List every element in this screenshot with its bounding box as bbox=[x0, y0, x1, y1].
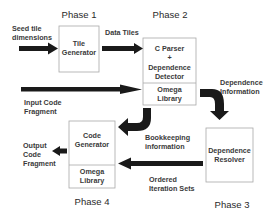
dependence-info-label-2: Information bbox=[220, 87, 260, 96]
bookkeeping-label-2: information bbox=[145, 142, 185, 151]
seed-label-1: Seed tile bbox=[12, 24, 42, 33]
seed-arrow-icon bbox=[19, 43, 58, 55]
input-code-label-1: Input Code bbox=[24, 98, 62, 107]
data-tiles-arrow-icon bbox=[102, 43, 143, 54]
omega-library-bottom-label-1: Omega bbox=[80, 167, 105, 176]
omega-library-bottom-label-2: Library bbox=[80, 176, 104, 185]
output-code-arrow-icon bbox=[52, 146, 67, 156]
output-code-label-1: Output bbox=[23, 141, 47, 150]
phase-2-title: Phase 2 bbox=[153, 9, 188, 20]
seed-label-2: dimensions bbox=[12, 33, 52, 42]
dependence-info-label-1: Dependence bbox=[220, 78, 263, 87]
code-generator-label-2: Generator bbox=[75, 140, 110, 149]
input-code-arrow-icon bbox=[21, 85, 142, 95]
resolver-label-1: Dependence bbox=[208, 146, 251, 155]
bookkeeping-label-1: Bookkeeping bbox=[145, 133, 190, 142]
tile-generator-box: Tile Generator bbox=[59, 26, 99, 72]
output-code-label-3: Fragment bbox=[23, 159, 56, 168]
resolver-label-2: Resolver bbox=[214, 155, 245, 164]
code-generator-label-1: Code bbox=[83, 131, 101, 140]
phase-3-title: Phase 3 bbox=[215, 199, 250, 210]
parser-label-2: + bbox=[167, 53, 171, 62]
omega-library-top-label-2: Library bbox=[157, 94, 181, 103]
tile-generator-label-2: Generator bbox=[62, 48, 97, 57]
omega-library-top-label-1: Omega bbox=[157, 85, 182, 94]
data-tiles-label: Data Tiles bbox=[105, 28, 139, 37]
parser-label-3: Dependence bbox=[148, 63, 191, 72]
pipeline-diagram: Phase 1 Phase 2 Phase 3 Phase 4 Tile Gen… bbox=[0, 0, 275, 212]
phase-1-title: Phase 1 bbox=[62, 9, 97, 20]
tile-generator-label-1: Tile bbox=[73, 39, 85, 48]
ordered-sets-arrow-icon bbox=[118, 158, 203, 170]
dependence-resolver-box: Dependence Resolver bbox=[206, 128, 253, 182]
output-code-label-2: Code bbox=[23, 150, 41, 159]
ordered-sets-label-1: Ordered bbox=[149, 175, 177, 184]
parser-label-4: Detector bbox=[155, 72, 184, 81]
ordered-sets-label-2: Iteration Sets bbox=[149, 184, 195, 193]
input-code-label-2: Fragment bbox=[24, 107, 57, 116]
phase-4-title: Phase 4 bbox=[75, 196, 110, 207]
code-generator-box: Code Generator Omega Library bbox=[69, 121, 115, 188]
bookkeeping-arrow-icon bbox=[118, 108, 151, 136]
parser-label-1: C Parser bbox=[155, 44, 185, 53]
parser-box: C Parser + Dependence Detector Omega Lib… bbox=[143, 38, 196, 105]
